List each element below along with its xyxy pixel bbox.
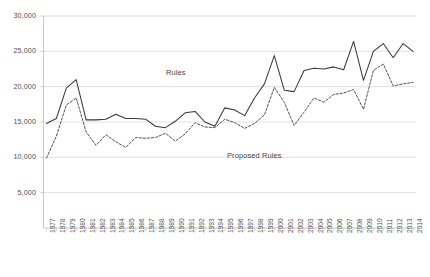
y-axis-tick-label: 20,000 — [2, 82, 36, 91]
gridlines-group — [41, 16, 417, 193]
y-axis-tick-label: 10,000 — [2, 152, 36, 161]
x-axis-tick-label: 1984 — [118, 218, 125, 233]
y-axis-tick-label: 15,000 — [2, 117, 36, 126]
line-chart-canvas — [0, 0, 430, 277]
x-axis-tick-label: 2002 — [297, 218, 304, 233]
x-axis-tick-label: 1982 — [99, 218, 106, 233]
x-axis-tick-label: 1981 — [89, 218, 96, 233]
x-axis-tick-label: 2000 — [277, 218, 284, 233]
x-axis-tick-label: 1987 — [148, 218, 155, 233]
x-axis-tick-label: 2012 — [396, 218, 403, 233]
x-axis-tick-label: 2008 — [356, 218, 363, 233]
x-axis-tick-label: 2005 — [326, 218, 333, 233]
x-axis-tick-label: 2010 — [376, 218, 383, 233]
y-axis-tick-label: 25,000 — [2, 46, 36, 55]
x-axis-tick-label: 1991 — [188, 218, 195, 233]
y-axis-tick-label: 5,000 — [2, 188, 36, 197]
x-axis-tick-label: 2001 — [287, 218, 294, 233]
y-axis-tick-label: 30,000 — [2, 11, 36, 20]
chart-container: 5,00010,00015,00020,00025,00030,000 1977… — [0, 0, 430, 277]
x-axis-tick-label: 1985 — [128, 218, 135, 233]
series-line-proposed-rules — [46, 64, 413, 158]
x-axis-tick-label: 1999 — [267, 218, 274, 233]
x-axis-tick-label: 1988 — [158, 218, 165, 233]
x-axis-tick-label: 2006 — [336, 218, 343, 233]
x-axis-tick-label: 1989 — [168, 218, 175, 233]
x-axis-tick-label: 1997 — [247, 218, 254, 233]
series-label-rules: Rules — [166, 68, 186, 77]
x-axis-tick-label: 2003 — [307, 218, 314, 233]
x-axis-tick-label: 1980 — [79, 218, 86, 233]
x-axis-tick-label: 1996 — [237, 218, 244, 233]
x-axis-tick-label: 2004 — [317, 218, 324, 233]
x-axis-tick-label: 2013 — [406, 218, 413, 233]
x-axis-tick-label: 1992 — [198, 218, 205, 233]
x-axis-tick-label: 2009 — [366, 218, 373, 233]
series-label-proposed-rules: Proposed Rules — [227, 151, 282, 160]
x-axis-tick-label: 1998 — [257, 218, 264, 233]
x-axis-tick-label: 1995 — [227, 218, 234, 233]
x-axis-tick-label: 1979 — [69, 218, 76, 233]
x-axis-tick-label: 1990 — [178, 218, 185, 233]
x-axis-tick-label: 1977 — [49, 218, 56, 233]
series-paths-group — [46, 41, 413, 158]
x-axis-tick-label: 2007 — [346, 218, 353, 233]
x-axis-tick-label: 1983 — [109, 218, 116, 233]
x-axis-tick-label: 1994 — [217, 218, 224, 233]
x-axis-tick-label: 2014 — [416, 218, 423, 233]
x-axis-tick-label: 1993 — [208, 218, 215, 233]
x-axis-tick-label: 1978 — [59, 218, 66, 233]
x-axis-tick-label: 2011 — [386, 219, 393, 233]
series-line-rules — [46, 41, 413, 127]
x-axis-tick-label: 1986 — [138, 218, 145, 233]
